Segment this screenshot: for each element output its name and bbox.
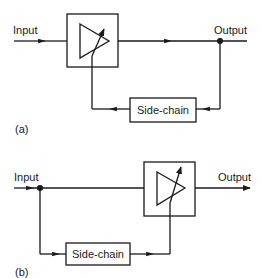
input-label-b: Input: [14, 172, 38, 183]
diagram-b: [14, 162, 250, 265]
sidechain-label-b: Side-chain: [66, 243, 130, 265]
caption-b: (b): [15, 267, 28, 278]
output-label-a: Output: [214, 25, 247, 36]
amplifier-triangle-icon-a: [80, 24, 109, 58]
input-label-a: Input: [13, 25, 37, 36]
variable-gain-arrow-icon-a: [92, 29, 104, 56]
caption-a: (a): [15, 124, 28, 135]
sidechain-label-a: Side-chain: [130, 98, 196, 122]
output-label-b: Output: [218, 172, 251, 183]
